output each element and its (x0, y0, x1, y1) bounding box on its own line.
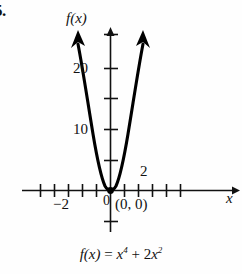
y-tick-label-10: 10 (73, 121, 88, 138)
origin-point-label: (0, 0) (115, 196, 148, 213)
y-tick-label-20: 20 (73, 60, 88, 77)
x-axis-arrowhead-icon (232, 187, 240, 195)
equation-equals: = (101, 246, 117, 262)
equation-lhs: f(x) (80, 246, 101, 262)
equation-term2-base: x (151, 246, 158, 262)
figure-page: 5. (0, 0, 242, 274)
x-tick-label-2: 2 (140, 163, 148, 180)
equation-term2-coefficient: 2 (144, 246, 152, 262)
function-equation: f(x) = x4 + 2x2 (0, 245, 242, 263)
graph-figure: f(x) x 20 10 −2 2 0 (0, 0) (0, 0, 242, 240)
origin-axis-label: 0 (103, 193, 110, 209)
x-tick-label-negative-2: −2 (53, 196, 69, 213)
equation-term2-exponent: 2 (158, 245, 163, 255)
x-axis-label: x (226, 190, 233, 207)
y-axis-label: f(x) (66, 10, 87, 27)
equation-plus: + (128, 246, 144, 262)
